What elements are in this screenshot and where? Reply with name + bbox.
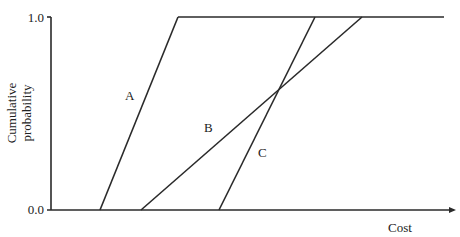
x-axis-arrow-icon — [449, 207, 456, 213]
curve-label-b: B — [204, 120, 213, 135]
curve-b — [141, 17, 362, 210]
curve-a — [100, 17, 178, 210]
curve-label-a: A — [125, 88, 135, 103]
x-axis-title: Cost — [388, 220, 412, 235]
y-tick-label-bottom: 0.0 — [28, 202, 44, 217]
curve-label-c: C — [258, 145, 267, 160]
cumulative-probability-chart: 1.0 0.0 Cumulative probability Cost A B … — [0, 0, 460, 237]
y-tick-label-top: 1.0 — [28, 10, 44, 25]
y-axis-title-line1: Cumulative — [4, 82, 19, 143]
y-axis-title: Cumulative probability — [4, 82, 34, 143]
curve-c — [219, 17, 315, 210]
y-axis-title-line2: probability — [19, 84, 34, 142]
